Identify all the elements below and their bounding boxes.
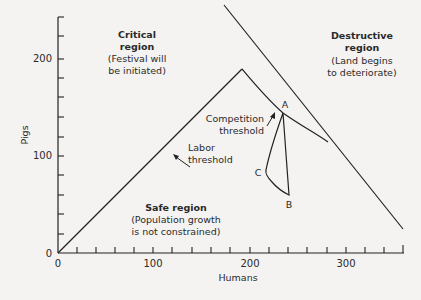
x-tick-0: 0	[55, 258, 61, 269]
svg-text:threshold: threshold	[188, 154, 233, 165]
safe-region-label: Safe region (Population growth is not co…	[131, 202, 221, 237]
point-b-label: B	[286, 199, 293, 210]
svg-text:Critical: Critical	[118, 29, 156, 40]
svg-text:threshold: threshold	[219, 125, 264, 136]
y-tick-0: 0	[46, 248, 52, 259]
svg-text:region: region	[120, 41, 155, 52]
svg-text:Competition: Competition	[206, 113, 264, 124]
y-axis: 200 100 0 Pigs	[19, 17, 64, 259]
svg-text:Safe region: Safe region	[145, 202, 207, 213]
diagram-canvas: 200 100 0 Pigs 0 100 200	[0, 0, 421, 300]
x-tick-300: 300	[336, 258, 355, 269]
svg-text:Labor: Labor	[188, 142, 215, 153]
destructive-region-label: Destructive region (Land begins to deter…	[327, 30, 396, 78]
y-tick-200: 200	[33, 53, 52, 64]
point-a-label: A	[282, 99, 289, 110]
competition-arrow-icon	[267, 112, 275, 126]
competition-threshold-label: Competition threshold	[206, 113, 264, 136]
svg-text:to deteriorate): to deteriorate)	[327, 67, 396, 78]
svg-text:Destructive: Destructive	[331, 30, 393, 41]
cycle-abc-path	[266, 113, 289, 195]
svg-text:(Population growth: (Population growth	[131, 214, 221, 225]
svg-text:is not constrained): is not constrained)	[132, 226, 221, 237]
x-tick-100: 100	[143, 258, 162, 269]
point-c-label: C	[255, 167, 262, 178]
x-axis-label: Humans	[218, 272, 257, 283]
svg-text:be initiated): be initiated)	[108, 65, 166, 76]
y-axis-label: Pigs	[19, 125, 30, 144]
x-axis: 0 100 200 300 Humans	[55, 245, 404, 283]
critical-region-label: Critical region (Festival will be initia…	[108, 29, 167, 76]
svg-text:(Land begins: (Land begins	[331, 55, 392, 66]
svg-text:(Festival will: (Festival will	[108, 53, 167, 64]
x-tick-200: 200	[240, 258, 259, 269]
y-tick-100: 100	[33, 150, 52, 161]
svg-text:region: region	[345, 42, 380, 53]
labor-threshold-label: Labor threshold	[188, 142, 233, 165]
